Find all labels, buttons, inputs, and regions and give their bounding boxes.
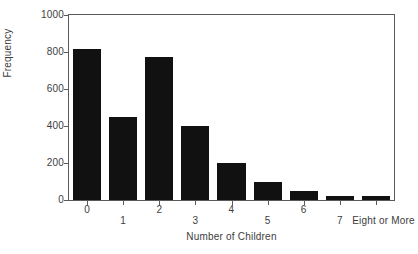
x-tick-label: 1 [120, 215, 126, 226]
x-tick-label: Eight or More [352, 215, 415, 226]
x-tick-label: 4 [229, 204, 235, 215]
x-tick-label: 7 [337, 215, 343, 226]
bar [109, 117, 137, 200]
x-axis-title: Number of Children [68, 231, 395, 242]
x-tick-label: 3 [192, 215, 198, 226]
y-tick-label: 600 [24, 83, 64, 94]
bar [290, 191, 318, 200]
x-tick-label: 0 [84, 204, 90, 215]
y-tick-label: 200 [24, 157, 64, 168]
y-tick-label: 0 [24, 194, 64, 205]
bar [73, 49, 101, 200]
bar-series [69, 15, 394, 200]
y-tick-label: 800 [24, 46, 64, 57]
x-axis-tick-labels: 01234567Eight or More [68, 204, 408, 234]
bar [217, 163, 245, 200]
x-tick-label: 2 [156, 204, 162, 215]
bar [362, 196, 390, 200]
y-axis-tick-labels: 02004006008001000 [20, 14, 64, 201]
bar [181, 126, 209, 200]
y-axis-title: Frequency [2, 8, 16, 98]
bar [326, 196, 354, 200]
y-tick-label: 1000 [24, 9, 64, 20]
y-tick-label: 400 [24, 120, 64, 131]
bar [145, 57, 173, 200]
x-tick-label: 6 [301, 204, 307, 215]
bar [254, 182, 282, 201]
chart-screenshot: Frequency 02004006008001000 01234567Eigh… [0, 0, 418, 254]
x-tick-label: 5 [265, 215, 271, 226]
